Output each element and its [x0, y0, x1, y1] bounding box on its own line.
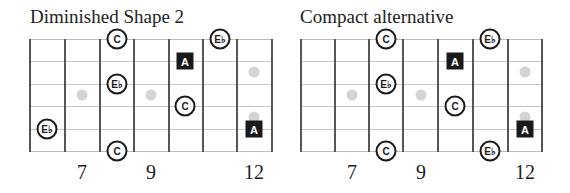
fret-number-12: 12	[244, 161, 264, 184]
fret-line	[472, 39, 474, 152]
fret-line	[29, 39, 31, 152]
fret-line	[541, 39, 543, 152]
fret-line	[402, 39, 404, 152]
inlay-dot-fret-12-upper	[520, 67, 531, 78]
inlay-dot-fret-12-upper	[249, 67, 260, 78]
note-eflat: E♭	[480, 141, 501, 162]
fret-line	[334, 39, 336, 152]
note-c: C	[376, 29, 397, 50]
note-c: C	[107, 29, 128, 50]
note-a-root: A	[246, 121, 263, 138]
inlay-dot-fret-7	[347, 90, 358, 101]
fret-line	[236, 39, 238, 152]
fret-line	[271, 39, 273, 152]
fret-line	[99, 39, 101, 152]
note-eflat: E♭	[37, 119, 58, 140]
fret-line	[64, 39, 66, 152]
fret-line	[300, 39, 302, 152]
note-a-root: A	[177, 53, 194, 70]
fret-number-7: 7	[77, 161, 87, 184]
fret-line	[133, 39, 135, 152]
fret-number-12: 12	[515, 161, 535, 184]
note-c: C	[107, 141, 128, 162]
note-eflat: E♭	[376, 74, 397, 95]
fret-line	[202, 39, 204, 152]
fret-number-9: 9	[146, 161, 156, 184]
fret-line	[368, 39, 370, 152]
note-eflat: E♭	[480, 29, 501, 50]
inlay-dot-fret-9	[146, 90, 157, 101]
diagram-title: Compact alternative	[300, 6, 454, 28]
fret-number-9: 9	[416, 161, 426, 184]
fret-line	[168, 39, 170, 152]
fret-line	[437, 39, 439, 152]
diagram-title: Diminished Shape 2	[30, 6, 184, 28]
inlay-dot-fret-9	[416, 90, 427, 101]
note-a-root: A	[517, 121, 534, 138]
note-c: C	[445, 96, 466, 117]
fret-number-7: 7	[347, 161, 357, 184]
note-c: C	[376, 141, 397, 162]
inlay-dot-fret-7	[77, 90, 88, 101]
note-a-root: A	[447, 53, 464, 70]
note-c: C	[175, 96, 196, 117]
note-eflat: E♭	[107, 74, 128, 95]
note-eflat: E♭	[210, 29, 231, 50]
fret-line	[507, 39, 509, 152]
